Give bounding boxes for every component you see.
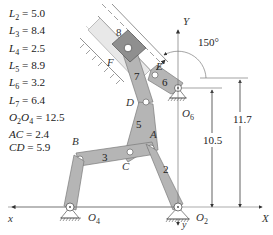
label-A: A	[149, 128, 157, 140]
label-D: D	[125, 96, 134, 108]
label-link-8: 8	[116, 26, 122, 38]
mechanism-diagram: 8 F 7 E 6 Y 150° xO6 11.7 10.5 D 5 A B 3…	[0, 0, 273, 235]
label-x-axis: x	[7, 212, 13, 224]
label-B: B	[72, 135, 79, 147]
label-link-6: 6	[162, 76, 168, 88]
label-O2: O2	[196, 211, 208, 226]
label-link-5: 5	[136, 118, 142, 130]
dimension-11-7: 11.7	[233, 113, 252, 125]
label-link-7: 7	[134, 70, 140, 82]
link-2	[146, 144, 183, 210]
label-angle: 150°	[198, 36, 219, 48]
label-O6: xO6	[182, 107, 194, 122]
label-C: C	[122, 160, 130, 172]
label-F: F	[106, 56, 114, 68]
label-O4: O4	[88, 211, 100, 226]
link-4	[64, 155, 84, 210]
label-Y-axis: Y	[183, 15, 191, 27]
dimension-10-5: 10.5	[203, 134, 223, 146]
label-link-3: 3	[102, 151, 108, 163]
label-link-2: 2	[163, 163, 169, 175]
label-E: E	[155, 60, 163, 72]
link-3	[76, 142, 156, 166]
label-X-axis: X	[261, 212, 270, 224]
label-y-axis: y	[181, 219, 187, 230]
ground-O4	[60, 203, 81, 221]
